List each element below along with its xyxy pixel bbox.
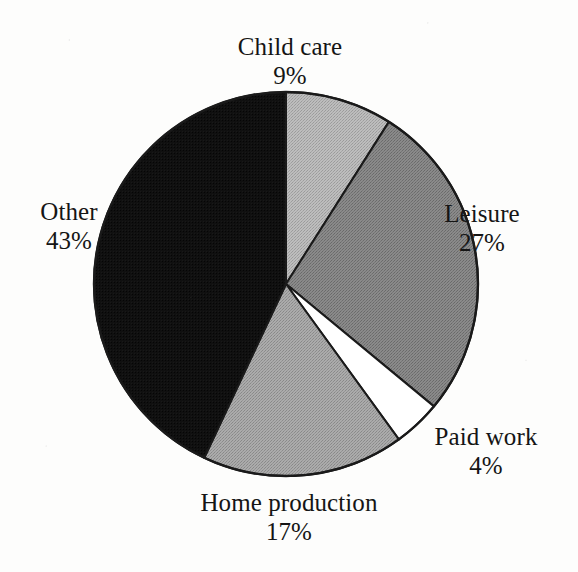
pie-label-leisure: Leisure 27% <box>414 200 550 257</box>
pie-label-home-production-percent: 17% <box>178 518 400 547</box>
pie-label-other-name: Other <box>8 198 130 227</box>
pie-label-child-care-percent: 9% <box>206 62 374 91</box>
pie-label-leisure-percent: 27% <box>414 229 550 258</box>
pie-label-leisure-name: Leisure <box>414 200 550 229</box>
pie-label-paid-work-name: Paid work <box>412 423 560 452</box>
pie-label-child-care-name: Child care <box>206 33 374 62</box>
pie-chart: Child care 9% Leisure 27% Paid work 4% H… <box>0 0 578 572</box>
pie-slice-group <box>94 92 478 476</box>
pie-label-paid-work: Paid work 4% <box>412 423 560 480</box>
pie-label-home-production: Home production 17% <box>178 489 400 546</box>
pie-label-paid-work-percent: 4% <box>412 452 560 481</box>
pie-label-home-production-name: Home production <box>178 489 400 518</box>
pie-label-other-percent: 43% <box>8 227 130 256</box>
pie-label-child-care: Child care 9% <box>206 33 374 90</box>
pie-label-other: Other 43% <box>8 198 130 255</box>
